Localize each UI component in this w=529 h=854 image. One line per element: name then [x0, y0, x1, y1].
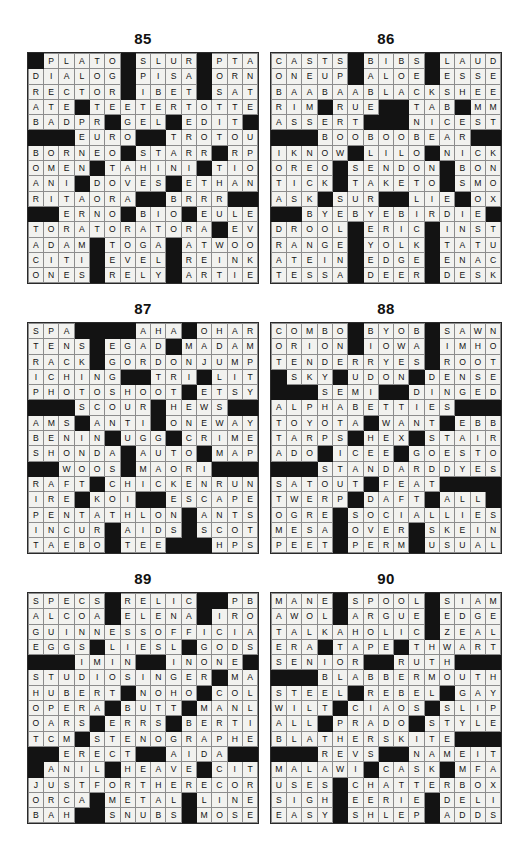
grid-cell-letter: T — [242, 369, 257, 384]
grid-cell-letter: O — [332, 130, 347, 145]
grid-cell-letter: S — [440, 594, 455, 609]
grid-cell-letter: K — [166, 476, 181, 491]
grid-cell-letter: B — [485, 415, 500, 430]
grid-cell-letter: T — [212, 161, 227, 176]
grid-border: SPECSRELICPBALCOAELENAIROGUINNESSOFFICIA… — [27, 592, 259, 824]
grid-cell-letter: E — [378, 268, 393, 283]
grid-cell-letter: O — [378, 339, 393, 354]
grid-cell-letter: T — [151, 222, 166, 237]
grid-cell-letter: S — [271, 655, 286, 670]
grid-cell-block — [242, 461, 257, 476]
grid-cell-letter: X — [394, 431, 409, 446]
grid-cell-letter: G — [455, 385, 470, 400]
grid-cell-letter: H — [151, 777, 166, 792]
grid-cell-block — [348, 145, 363, 160]
grid-cell-letter: U — [317, 69, 332, 84]
grid-cell-letter: A — [409, 476, 424, 491]
grid-cell-letter: U — [44, 685, 59, 700]
grid-row: OARSERRSBERTI — [28, 716, 257, 731]
grid-cell-block — [394, 746, 409, 761]
grid-cell-letter: M — [271, 594, 286, 609]
grid-cell-letter: S — [302, 268, 317, 283]
grid-cell-letter: E — [485, 609, 500, 624]
grid-cell-letter: A — [440, 130, 455, 145]
grid-cell-letter: P — [317, 431, 332, 446]
grid-row: CITIEVELREINK — [28, 252, 257, 267]
grid-cell-letter: A — [59, 324, 74, 339]
grid-cell-letter: B — [317, 130, 332, 145]
grid-cell-letter: U — [332, 476, 347, 491]
grid-cell-letter: A — [197, 339, 212, 354]
grid-cell-letter: S — [470, 69, 485, 84]
grid-cell-letter: L — [485, 624, 500, 639]
grid-cell-letter: M — [197, 808, 212, 823]
grid-cell-block — [332, 522, 347, 537]
grid-cell-letter: O — [317, 222, 332, 237]
grid-cell-letter: L — [440, 507, 455, 522]
grid-cell-letter: C — [378, 507, 393, 522]
grid-cell-letter: O — [212, 69, 227, 84]
grid-cell-letter: T — [271, 176, 286, 191]
grid-cell-letter: T — [197, 237, 212, 252]
grid-cell-block — [135, 746, 150, 761]
grid-cell-letter: G — [135, 237, 150, 252]
grid-cell-letter: S — [74, 339, 89, 354]
grid-cell-letter: R — [317, 746, 332, 761]
grid-cell-letter: T — [409, 176, 424, 191]
grid-cell-letter: E — [424, 130, 439, 145]
grid-cell-letter: R — [135, 354, 150, 369]
grid-cell-letter: O — [440, 670, 455, 685]
grid-row: BAHSNUBSMOSE — [28, 808, 257, 823]
grid-row: USESCHATTERBOX — [271, 777, 500, 792]
grid-cell-block — [120, 84, 135, 99]
grid-cell-letter: G — [455, 685, 470, 700]
grid-cell-letter: E — [227, 222, 242, 237]
grid-cell-block — [74, 99, 89, 114]
grid-cell-letter: R — [348, 716, 363, 731]
grid-cell-block — [89, 268, 104, 283]
grid-cell-letter: T — [348, 476, 363, 491]
grid-cell-letter: T — [348, 115, 363, 130]
grid-cell-letter: E — [440, 69, 455, 84]
grid-cell-letter: T — [212, 130, 227, 145]
grid-cell-letter: A — [394, 415, 409, 430]
grid-cell-letter: E — [378, 685, 393, 700]
grid-cell-letter: E — [181, 176, 196, 191]
grid-cell-letter: Y — [317, 369, 332, 384]
grid-cell-letter: I — [227, 161, 242, 176]
grid-cell-letter: T — [74, 476, 89, 491]
grid-cell-letter: A — [394, 762, 409, 777]
grid-cell-letter: Y — [151, 268, 166, 283]
grid-cell-block — [151, 400, 166, 415]
grid-row: STANDARDDYES — [271, 461, 500, 476]
grid-row: OREOSENDONBON — [271, 161, 500, 176]
grid-cell-letter: P — [242, 446, 257, 461]
grid-cell-letter: A — [135, 339, 150, 354]
grid-cell-letter: E — [28, 639, 43, 654]
grid-cell-block — [74, 492, 89, 507]
grid-row: STUDIOSINGERMA — [28, 670, 257, 685]
grid-cell-letter: S — [105, 808, 120, 823]
grid-cell-letter: O — [105, 492, 120, 507]
grid-cell-letter: I — [105, 655, 120, 670]
grid-cell-letter: T — [424, 731, 439, 746]
grid-cell-block — [89, 324, 104, 339]
grid-cell-letter: C — [59, 792, 74, 807]
grid-cell-letter: A — [44, 538, 59, 553]
grid-cell-letter: E — [287, 522, 302, 537]
grid-cell-letter: T — [470, 237, 485, 252]
grid-cell-letter: R — [181, 252, 196, 267]
grid-cell-letter: L — [74, 69, 89, 84]
grid-cell-letter: I — [151, 206, 166, 221]
grid-cell-block — [287, 130, 302, 145]
grid-row: SCOURHEWS — [28, 400, 257, 415]
grid-cell-letter: T — [485, 639, 500, 654]
grid-cell-letter: M — [302, 99, 317, 114]
grid-cell-letter: E — [120, 609, 135, 624]
grid-cell-block — [89, 792, 104, 807]
grid-cell-letter: N — [332, 252, 347, 267]
grid-cell-block — [317, 99, 332, 114]
grid-cell-letter: K — [424, 84, 439, 99]
grid-cell-letter: E — [317, 507, 332, 522]
grid-cell-letter: T — [394, 400, 409, 415]
